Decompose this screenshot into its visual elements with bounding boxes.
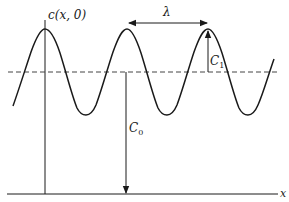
x-axis-label: x (280, 187, 287, 200)
diagram-canvas: x c(x, 0) λ C1 C0 (0, 0, 289, 202)
wavelength-label: λ (162, 5, 171, 19)
curve-label: c(x, 0) (48, 8, 86, 22)
mean-label: C0 (129, 121, 143, 137)
amplitude-label: C1 (210, 54, 224, 70)
